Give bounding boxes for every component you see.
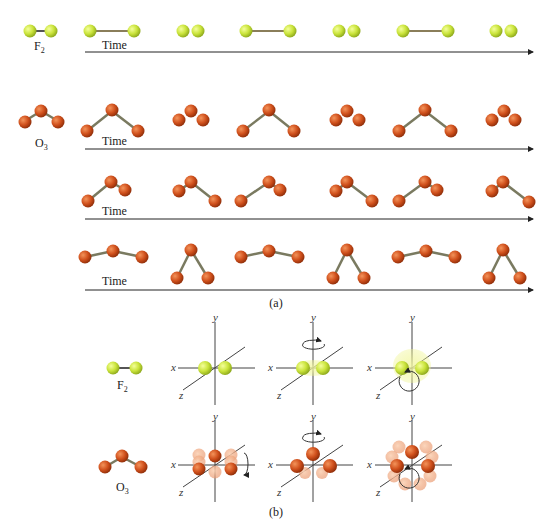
svg-text:z: z: [375, 389, 381, 401]
caption-a: (a): [269, 296, 282, 310]
svg-text:z: z: [178, 389, 184, 401]
time-label-row3: Time: [102, 204, 127, 218]
svg-text:z: z: [276, 389, 282, 401]
f2-label-b: F2: [117, 378, 128, 394]
rotation-arrow-icon: [244, 453, 248, 475]
svg-text:x: x: [366, 361, 372, 373]
svg-text:y: y: [212, 410, 218, 422]
o3-asymmetric-stretch-frames: [82, 176, 536, 209]
molecular-motion-diagram: F2 Time O3 Ti: [0, 0, 551, 520]
svg-text:z: z: [375, 486, 381, 498]
o3-axes-z-rotation: x y z: [366, 410, 452, 502]
caption-b: (b): [269, 505, 283, 519]
o3-reference-molecule-b: [99, 450, 148, 474]
svg-text:y: y: [310, 410, 316, 422]
f2-vibration-frames: [84, 25, 518, 38]
f2-axes-z-rotation: x y z: [366, 311, 452, 405]
f2-axes-y-rotation: x y z: [267, 311, 353, 405]
f2-label: F2: [34, 39, 45, 55]
o3-reference-molecule: [19, 105, 65, 129]
svg-text:z: z: [178, 486, 184, 498]
time-label-row1: Time: [102, 38, 127, 52]
svg-text:x: x: [267, 361, 273, 373]
o3-axes-x-rotation: x y z: [170, 410, 255, 502]
svg-text:y: y: [409, 311, 415, 323]
time-label-row4: Time: [102, 274, 127, 288]
svg-text:x: x: [267, 458, 273, 470]
f2-reference-molecule: [24, 25, 58, 38]
svg-text:x: x: [366, 458, 372, 470]
time-label-row2: Time: [102, 134, 127, 148]
o3-axes-y-rotation: x y z: [267, 410, 353, 502]
svg-text:x: x: [170, 458, 176, 470]
svg-text:z: z: [276, 486, 282, 498]
f2-axes-no-rotation: x y z: [170, 311, 255, 405]
svg-text:y: y: [409, 410, 415, 422]
f2-reference-molecule-b: [107, 362, 143, 375]
svg-text:y: y: [212, 311, 218, 323]
o3-bending-frames: [79, 244, 527, 285]
svg-text:x: x: [170, 361, 176, 373]
o3-symmetric-stretch-frames: [81, 104, 522, 138]
svg-text:y: y: [310, 311, 316, 323]
o3-label: O3: [35, 136, 48, 152]
o3-label-b: O3: [116, 480, 129, 496]
